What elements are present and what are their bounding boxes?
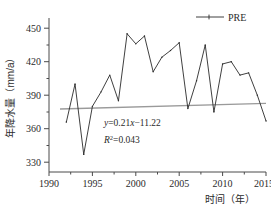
data-point xyxy=(92,106,93,107)
legend-label-pre: PRE xyxy=(228,12,246,23)
regression-equation: y=0.21x−11.22 xyxy=(103,118,161,128)
y-axis-ticks xyxy=(44,28,49,162)
x-tick-label-2010: 2010 xyxy=(213,178,233,189)
data-point xyxy=(257,95,258,96)
data-point xyxy=(248,72,249,73)
x-tick-label-2000: 2000 xyxy=(126,178,146,189)
data-point xyxy=(100,91,101,92)
series-line-pre xyxy=(66,34,266,155)
data-point xyxy=(74,83,75,84)
equation-tail: −11.22 xyxy=(134,118,161,128)
y-axis-title: 年降水量（mm/a） xyxy=(4,53,16,138)
data-point xyxy=(83,154,84,155)
data-point xyxy=(152,71,153,72)
data-point xyxy=(170,50,171,51)
chart-canvas: 450 420 390 360 330 1990 1995 2000 2005 … xyxy=(0,0,271,213)
r-squared-annotation: R2=0.043 xyxy=(103,134,140,145)
r-value: =0.043 xyxy=(113,135,140,145)
data-point xyxy=(135,43,136,44)
x-tick-label-1990: 1990 xyxy=(39,178,59,189)
x-tick-label-1995: 1995 xyxy=(82,178,102,189)
data-point xyxy=(179,42,180,43)
x-axis-title: 时间（年） xyxy=(205,193,255,205)
equation-body: =0.21 xyxy=(108,118,130,128)
y-tick-label-420: 420 xyxy=(26,56,41,67)
data-point xyxy=(196,80,197,81)
x-tick-label-2015: 2015 xyxy=(254,178,271,189)
legend: PRE xyxy=(196,12,246,23)
data-point xyxy=(265,120,266,121)
data-point xyxy=(231,61,232,62)
x-tick-label-2005: 2005 xyxy=(169,178,189,189)
series-markers xyxy=(66,33,267,155)
y-tick-label-450: 450 xyxy=(26,23,41,34)
data-point xyxy=(109,74,110,75)
y-tick-label-330: 330 xyxy=(26,157,41,168)
data-point xyxy=(213,111,214,112)
x-axis-ticks xyxy=(49,172,266,176)
y-tick-label-360: 360 xyxy=(26,123,41,134)
data-point xyxy=(187,108,188,109)
data-point xyxy=(118,100,119,101)
data-point xyxy=(161,57,162,58)
data-point xyxy=(126,33,127,34)
precipitation-trend-chart: 450 420 390 360 330 1990 1995 2000 2005 … xyxy=(0,0,271,213)
data-point xyxy=(205,44,206,45)
data-point xyxy=(66,121,67,122)
trend-line xyxy=(60,103,266,109)
data-point xyxy=(222,63,223,64)
y-tick-label-390: 390 xyxy=(26,90,41,101)
data-point xyxy=(239,74,240,75)
data-point xyxy=(144,35,145,36)
